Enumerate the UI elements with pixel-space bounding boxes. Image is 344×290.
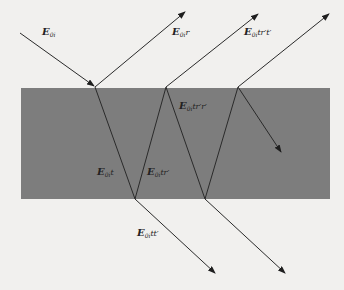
transmitted-ray-2	[205, 199, 285, 273]
label-internal-up-1: E0itr′	[147, 167, 169, 178]
label-symbol: E	[179, 100, 187, 111]
label-transmitted-1: E0itt′	[137, 228, 159, 239]
label-internal-down-2: E0itr′r′	[179, 101, 207, 112]
thin-film-reflection-diagram: E0i E0ir E0itr′t′ E0itr′r′ E0it E0itr′ E…	[0, 0, 344, 290]
label-symbol: E	[244, 26, 252, 37]
label-suffix: tr′	[160, 168, 169, 177]
label-symbol: E	[97, 166, 105, 177]
label-reflected-2: E0itr′t′	[244, 27, 271, 38]
label-incident: E0i	[42, 27, 55, 38]
label-suffix: t	[110, 168, 113, 177]
label-subscript: 0i	[50, 31, 56, 38]
label-symbol: E	[42, 26, 50, 37]
dielectric-slab	[21, 88, 330, 199]
reflected-ray-2	[166, 14, 258, 87]
label-suffix: r	[185, 28, 189, 37]
label-symbol: E	[137, 227, 145, 238]
label-internal-down-1: E0it	[97, 167, 114, 178]
label-suffix: tr′t′	[257, 28, 271, 37]
reflected-ray-3	[238, 14, 329, 87]
label-symbol: E	[172, 26, 180, 37]
incident-ray	[20, 33, 94, 86]
diagram-canvas	[0, 0, 344, 290]
label-suffix: tr′r′	[192, 102, 207, 111]
label-reflected-1: E0ir	[172, 27, 189, 38]
reflected-ray-1	[95, 12, 185, 87]
label-symbol: E	[147, 166, 155, 177]
label-suffix: tt′	[150, 229, 158, 238]
